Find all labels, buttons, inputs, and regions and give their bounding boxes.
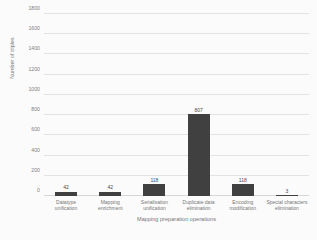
x-axis-tick-label: Duplicate data elimination [177,199,221,212]
x-axis-tick-label: Mapping enrichment [88,199,132,212]
y-axis-tick-label: 1800 [28,5,40,11]
y-axis-tick-label: 1000 [28,86,40,92]
bar-value-label: 42 [63,184,69,190]
bar-slot: 118 [221,14,265,196]
y-axis-title: Number of triples [9,28,15,88]
bar-slot: 3 [265,14,309,196]
bar-chart: Number of triples 0200400600800100012001… [0,0,317,240]
bar: 42 [55,192,77,196]
plot-area: 020040060080010001200140016001800 424211… [44,14,309,196]
x-axis-tick-label: Special characters elimination [265,199,309,212]
bar-slot: 807 [177,14,221,196]
bar: 118 [232,184,254,196]
bar-slot: 42 [44,14,88,196]
bar-value-label: 118 [150,177,158,183]
bar-value-label: 42 [107,184,113,190]
y-axis-tick-label: 1400 [28,45,40,51]
bar-value-label: 3 [286,188,289,194]
bar-slot: 42 [88,14,132,196]
y-axis-tick-label: 0 [37,187,40,193]
bar: 118 [143,184,165,196]
bar-value-label: 118 [239,177,247,183]
bar-value-label: 807 [194,107,202,113]
x-axis-title: Mapping preparation operations [44,216,309,222]
x-axis-tick-label: Serialisation unification [132,199,176,212]
y-axis-tick-label: 1600 [28,25,40,31]
bar: 3 [276,195,298,196]
x-axis-tick-label: Encoding modification [221,199,265,212]
y-axis-tick-label: 400 [31,147,40,153]
bar-slot: 118 [132,14,176,196]
y-axis-tick-label: 1200 [28,66,40,72]
y-axis-tick-label: 200 [31,167,40,173]
x-axis-tick-label: Datatype unification [44,199,88,212]
y-axis-tick-label: 800 [31,106,40,112]
bar: 807 [188,114,210,196]
bar: 42 [99,192,121,196]
x-axis-tick-labels: Datatype unificationMapping enrichmentSe… [44,199,309,212]
y-axis-tick-label: 600 [31,126,40,132]
bar-series: 42421188071183 [44,14,309,196]
